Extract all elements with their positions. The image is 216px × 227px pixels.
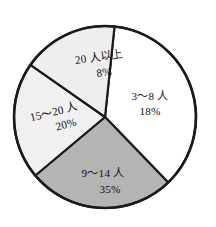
pie-slice-percent-label: 35% xyxy=(99,183,120,195)
pie-slice-category-label: 3〜8 人 xyxy=(132,90,169,102)
pie-chart-canvas: 3〜8 人18%9〜14 人35%15〜20 人20%20 人以上8% xyxy=(0,0,216,227)
pie-chart-figure: 3〜8 人18%9〜14 人35%15〜20 人20%20 人以上8% xyxy=(0,0,216,227)
pie-slice-percent-label: 18% xyxy=(139,105,160,117)
pie-slice-percent-label: 8% xyxy=(96,65,113,79)
pie-slice-category-label: 9〜14 人 xyxy=(82,167,125,179)
